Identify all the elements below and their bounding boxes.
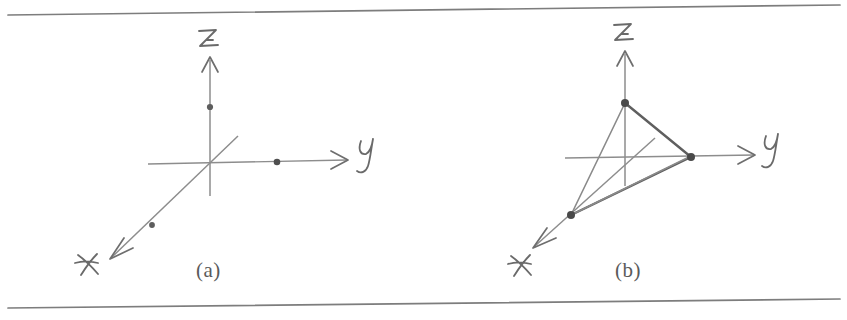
panel-b-x-axis (533, 138, 655, 248)
point-on-z (207, 104, 213, 110)
y-axis-label-glyph (357, 139, 373, 172)
panel-b-axis-labels (508, 24, 778, 276)
edge-x-to-z (571, 103, 625, 215)
z-axis-label-glyph (614, 24, 633, 40)
panel-a-x-axis (110, 136, 238, 259)
x-axis-label-glyph (75, 254, 98, 275)
point-on-x (149, 222, 155, 228)
page-rule-lines (8, 5, 840, 308)
edge-z-to-y (625, 103, 691, 157)
z-axis-label-glyph (199, 30, 218, 46)
panel-a-z-axis (202, 57, 218, 196)
panel-a-axis-labels (75, 30, 373, 275)
panel-a (75, 30, 373, 275)
y-axis-label-glyph (762, 134, 778, 167)
rule-line-bottom (8, 299, 840, 308)
panel-b (508, 24, 778, 276)
edge-x-through-origin-to-y (571, 156, 691, 215)
x-axis-line (535, 138, 655, 246)
y-axis-line (565, 155, 754, 158)
x-axis-line (112, 136, 238, 257)
panel-b-y-axis (565, 146, 755, 164)
panel-caption-a: (a) (196, 258, 221, 283)
vertex-on-x (567, 211, 575, 219)
point-on-y (274, 159, 281, 166)
panel-caption-b: (b) (615, 258, 641, 283)
figure-drawing (0, 0, 847, 320)
y-axis-line (148, 160, 347, 164)
panel-a-y-axis (148, 151, 348, 169)
x-axis-label-glyph (508, 255, 531, 276)
vertex-on-z (621, 99, 629, 107)
rule-line-top (8, 5, 840, 15)
figure-root: (a) (b) (0, 0, 847, 320)
panel-a-points (149, 104, 280, 228)
vertex-on-y (687, 153, 695, 161)
